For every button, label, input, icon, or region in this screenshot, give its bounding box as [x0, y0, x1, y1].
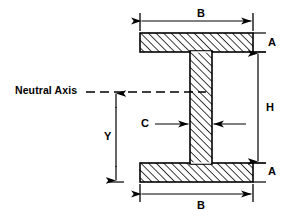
dimension-label-h: H — [266, 102, 274, 113]
neutral-axis-label: Neutral Axis — [15, 85, 77, 96]
dimension-a-top — [253, 33, 266, 52]
dimension-label-b-top: B — [197, 8, 205, 19]
dimension-label-b-bottom: B — [197, 200, 205, 211]
dimension-label-c: C — [141, 118, 149, 129]
web — [190, 51, 212, 164]
dimension-a-bottom — [253, 163, 266, 182]
dimension-label-a-top: A — [268, 37, 276, 48]
beam-section — [140, 33, 253, 182]
dimension-label-y: Y — [104, 131, 111, 142]
i-beam-cross-section-drawing — [0, 0, 291, 216]
dimension-h — [253, 52, 266, 163]
bottom-flange — [140, 163, 253, 182]
top-flange — [140, 33, 253, 52]
dimension-label-a-bottom: A — [268, 166, 276, 177]
diagram-canvas: Neutral Axis B B A A H C Y — [0, 0, 291, 216]
